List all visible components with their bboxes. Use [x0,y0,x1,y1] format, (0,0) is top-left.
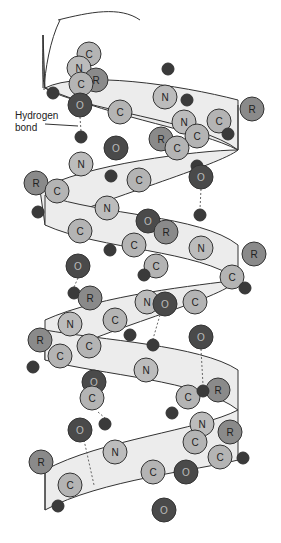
atom-C: C [165,136,189,160]
svg-text:C: C [85,49,92,60]
label-line-1: Hydrogen [15,110,58,122]
atom-H [222,128,234,140]
atom-H [237,452,249,464]
atom-C: C [69,72,93,96]
atom-C: C [176,385,200,409]
svg-text:N: N [111,447,118,458]
svg-text:R: R [250,249,257,260]
atom-H [162,63,174,75]
atom-C: C [141,460,165,484]
svg-text:O: O [160,505,168,516]
svg-text:C: C [215,116,222,127]
svg-text:R: R [214,385,221,396]
svg-text:C: C [191,297,198,308]
atom-O: O [153,292,177,316]
atom-N: N [134,358,158,382]
hydrogen-bond-label: Hydrogen bond [15,110,58,134]
label-line-2: bond [15,122,58,134]
svg-text:O: O [182,467,190,478]
svg-text:N: N [143,297,150,308]
atom-R: R [206,378,230,402]
svg-text:O: O [76,100,84,111]
atom-O: O [189,165,213,189]
svg-text:R: R [86,293,93,304]
atom-H [124,329,136,341]
alpha-helix-diagram: CNRCOCNRCNCRCONCORCNORCNCRCOCRNOCNCORCCN… [0,0,281,543]
svg-text:C: C [66,480,73,491]
atom-H [99,418,111,430]
atom-O: O [152,498,176,522]
svg-text:C: C [111,315,118,326]
helix-svg: CNRCOCNRCNCRCONCORCNORCNCRCOCRNOCNCORCCN… [0,0,281,543]
svg-text:C: C [193,131,200,142]
atom-O: O [66,254,90,278]
svg-text:C: C [85,341,92,352]
atom-R: R [29,450,53,474]
svg-text:R: R [32,178,39,189]
svg-text:C: C [88,393,95,404]
atom-H [181,94,193,106]
svg-text:O: O [112,143,120,154]
atom-R: R [24,171,48,195]
svg-text:N: N [198,419,205,430]
svg-text:N: N [161,92,168,103]
atom-N: N [58,312,82,336]
svg-text:C: C [56,351,63,362]
atom-C: C [68,219,92,243]
svg-text:C: C [152,261,159,272]
atom-R: R [218,420,242,444]
svg-text:C: C [76,226,83,237]
atom-C: C [45,179,69,203]
atom-H [138,269,150,281]
svg-text:C: C [216,452,223,463]
atom-H [27,361,39,373]
atom-N: N [69,152,93,176]
atom-H [104,244,116,256]
atom-R: R [240,97,264,121]
svg-text:N: N [103,203,110,214]
svg-text:O: O [197,172,205,183]
svg-text:N: N [66,319,73,330]
atom-O: O [104,136,128,160]
svg-text:O: O [76,425,84,436]
atom-N: N [103,440,127,464]
atom-C: C [183,430,207,454]
atom-O: O [68,418,92,442]
atom-C: C [58,473,82,497]
svg-text:R: R [36,335,43,346]
atom-R: R [242,242,266,266]
svg-text:R: R [157,134,164,145]
svg-text:N: N [77,159,84,170]
svg-text:N: N [197,243,204,254]
svg-text:C: C [191,437,198,448]
svg-text:R: R [37,457,44,468]
atom-C: C [48,344,72,368]
atom-C: C [103,308,127,332]
svg-text:C: C [149,467,156,478]
atom-C: C [127,168,151,192]
atom-H [239,282,251,294]
svg-text:N: N [142,365,149,376]
atom-R: R [78,286,102,310]
atom-H [194,209,206,221]
atom-N: N [95,196,119,220]
svg-text:N: N [180,117,187,128]
atom-C: C [108,100,132,124]
svg-text:C: C [135,175,142,186]
atom-C: C [80,386,104,410]
svg-text:C: C [184,392,191,403]
atom-H [75,131,87,143]
atom-C: C [183,290,207,314]
atom-N: N [189,236,213,260]
atom-O: O [189,325,213,349]
svg-text:C: C [53,186,60,197]
atom-H [105,170,117,182]
atom-N: N [153,85,177,109]
svg-text:C: C [116,107,123,118]
atom-H [147,339,159,351]
svg-text:R: R [162,227,169,238]
svg-text:R: R [248,104,255,115]
svg-text:O: O [161,299,169,310]
atom-H [166,407,178,419]
svg-text:R: R [226,427,233,438]
